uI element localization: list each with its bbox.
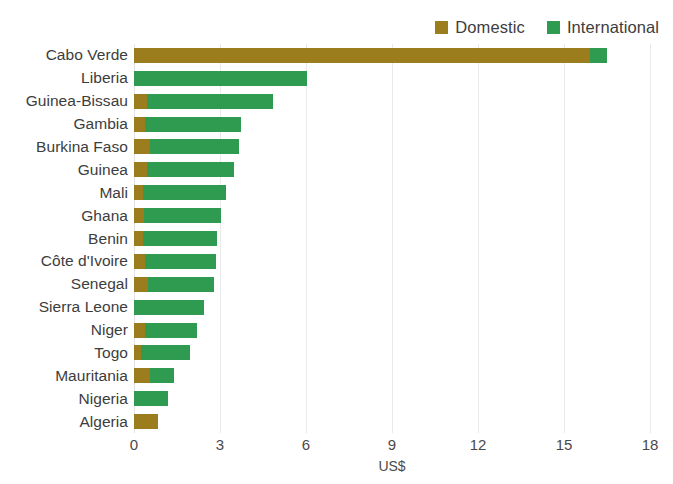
bar-row[interactable] — [134, 94, 650, 109]
bar-stack — [134, 300, 204, 315]
bar-stack — [134, 139, 239, 154]
x-tick-12: 12 — [470, 437, 487, 452]
bar-row[interactable] — [134, 277, 650, 292]
x-tick-18: 18 — [642, 437, 659, 452]
bar-segment-domestic[interactable] — [134, 139, 150, 154]
y-axis-label-benin: Benin — [0, 231, 128, 247]
bar-segment-domestic[interactable] — [134, 323, 145, 338]
bar-segment-domestic[interactable] — [134, 414, 158, 429]
bar-segment-international[interactable] — [145, 254, 215, 269]
x-tick-0: 0 — [130, 437, 138, 452]
bar-row[interactable] — [134, 345, 650, 360]
y-axis-label-gambia: Gambia — [0, 116, 128, 132]
bar-stack — [134, 345, 190, 360]
y-axis-label-niger: Niger — [0, 322, 128, 338]
bar-segment-domestic[interactable] — [134, 345, 141, 360]
bar-stack — [134, 208, 221, 223]
bar-segment-international[interactable] — [143, 231, 218, 246]
y-axis-category-labels: Cabo VerdeLiberiaGuinea-BissauGambiaBurk… — [0, 44, 128, 433]
bar-stack — [134, 117, 241, 132]
bar-segment-international[interactable] — [148, 277, 214, 292]
legend-label-international: International — [567, 19, 659, 36]
bar-stack — [134, 185, 226, 200]
y-axis-label-sierra-leone: Sierra Leone — [0, 299, 128, 315]
x-tick-3: 3 — [216, 437, 224, 452]
square-swatch-icon — [435, 21, 448, 34]
bar-stack — [134, 277, 214, 292]
bar-stack — [134, 414, 158, 429]
bar-segment-domestic[interactable] — [134, 254, 145, 269]
bar-segment-international[interactable] — [150, 139, 239, 154]
bar-segment-domestic[interactable] — [134, 94, 147, 109]
y-axis-label-algeria: Algeria — [0, 414, 128, 430]
bar-segment-domestic[interactable] — [134, 185, 143, 200]
bar-segment-international[interactable] — [147, 162, 234, 177]
bar-row[interactable] — [134, 254, 650, 269]
bar-segment-international[interactable] — [145, 117, 241, 132]
bar-stack — [134, 254, 216, 269]
legend-label-domestic: Domestic — [455, 19, 525, 36]
y-axis-label-ghana: Ghana — [0, 208, 128, 224]
bar-row[interactable] — [134, 231, 650, 246]
bar-row[interactable] — [134, 185, 650, 200]
bar-segment-domestic[interactable] — [134, 231, 143, 246]
x-axis-title: US$ — [134, 459, 650, 473]
bar-segment-international[interactable] — [145, 323, 197, 338]
bar-segment-domestic[interactable] — [134, 368, 150, 383]
bar-segment-international[interactable] — [590, 48, 607, 63]
bars-layer — [134, 44, 650, 433]
bar-segment-international[interactable] — [143, 185, 226, 200]
bar-row[interactable] — [134, 71, 650, 86]
y-axis-label-guinea: Guinea — [0, 162, 128, 178]
y-axis-label-guinea-bissau: Guinea-Bissau — [0, 93, 128, 109]
bar-stack — [134, 48, 607, 63]
bar-segment-international[interactable] — [141, 345, 190, 360]
bar-row[interactable] — [134, 323, 650, 338]
x-tick-6: 6 — [302, 437, 310, 452]
bar-row[interactable] — [134, 368, 650, 383]
bar-stack — [134, 231, 217, 246]
y-axis-label-c-te-d-ivoire: Côte d'Ivoire — [0, 253, 128, 269]
gridline-18 — [650, 44, 651, 433]
y-axis-label-mauritania: Mauritania — [0, 368, 128, 384]
y-axis-label-burkina-faso: Burkina Faso — [0, 139, 128, 155]
bar-segment-domestic[interactable] — [134, 208, 144, 223]
y-axis-label-senegal: Senegal — [0, 276, 128, 292]
bar-stack — [134, 391, 168, 406]
bar-row[interactable] — [134, 300, 650, 315]
bar-segment-domestic[interactable] — [134, 48, 590, 63]
legend-item-international[interactable]: International — [547, 19, 659, 36]
bar-segment-international[interactable] — [134, 71, 307, 86]
bar-stack — [134, 71, 307, 86]
bar-segment-domestic[interactable] — [134, 277, 148, 292]
stacked-bar-chart: Domestic International Cabo VerdeLiberia… — [0, 0, 673, 484]
bar-stack — [134, 368, 174, 383]
bar-segment-international[interactable] — [150, 368, 174, 383]
bar-segment-international[interactable] — [134, 300, 204, 315]
y-axis-label-togo: Togo — [0, 345, 128, 361]
chart-legend: Domestic International — [435, 17, 659, 37]
bar-row[interactable] — [134, 391, 650, 406]
bar-row[interactable] — [134, 162, 650, 177]
bar-stack — [134, 94, 273, 109]
bar-segment-domestic[interactable] — [134, 117, 145, 132]
y-axis-label-cabo-verde: Cabo Verde — [0, 47, 128, 63]
y-axis-label-nigeria: Nigeria — [0, 391, 128, 407]
bar-row[interactable] — [134, 117, 650, 132]
bar-segment-international[interactable] — [147, 94, 273, 109]
legend-item-domestic[interactable]: Domestic — [435, 19, 525, 36]
bar-segment-international[interactable] — [134, 391, 168, 406]
bar-row[interactable] — [134, 414, 650, 429]
bar-segment-domestic[interactable] — [134, 162, 147, 177]
bar-segment-international[interactable] — [144, 208, 221, 223]
y-axis-label-mali: Mali — [0, 185, 128, 201]
x-tick-15: 15 — [556, 437, 573, 452]
y-axis-label-liberia: Liberia — [0, 70, 128, 86]
bar-row[interactable] — [134, 139, 650, 154]
bar-stack — [134, 323, 197, 338]
bar-row[interactable] — [134, 48, 650, 63]
plot-area — [134, 44, 650, 433]
bar-row[interactable] — [134, 208, 650, 223]
square-swatch-icon — [547, 21, 560, 34]
bar-stack — [134, 162, 234, 177]
